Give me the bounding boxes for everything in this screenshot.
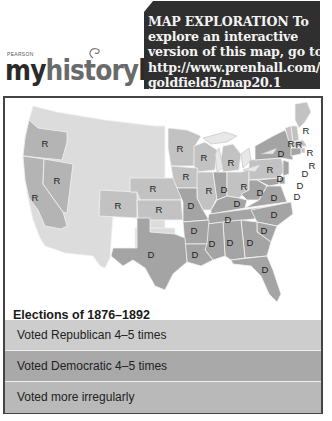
label-tennessee: D [225, 214, 232, 225]
label-virginia: D [271, 192, 278, 203]
label-kentucky: D [234, 198, 241, 209]
label-vermont: R [288, 138, 295, 149]
label-delaware: D [294, 191, 301, 202]
label-michigan: R [228, 157, 235, 168]
callout-text: MAP EXPLORATION To explore an interactiv… [148, 14, 320, 90]
label-new-hampshire: R [296, 139, 303, 150]
state-florida [231, 256, 281, 302]
label-kansas: R [156, 204, 163, 215]
legend-item-democratic: Voted Democratic 4–5 times [5, 351, 321, 381]
label-missouri: D [188, 200, 195, 211]
label-massachusetts: R [307, 147, 314, 158]
myhistorylab-logo: PEARSON myhistorylab [3, 51, 143, 87]
label-louisiana: D [192, 249, 199, 260]
label-indiana: D [221, 184, 228, 195]
logo-swirl-icon [83, 45, 103, 59]
callout-line: MAP EXPLORATION To [148, 14, 320, 29]
label-maryland: D [277, 173, 284, 184]
label-california: R [32, 192, 39, 203]
label-connecticut: D [302, 168, 309, 179]
map-exploration-callout: MAP EXPLORATION To explore an interactiv… [144, 1, 320, 89]
callout-line: explore an interactive [148, 29, 320, 44]
callout-url-line[interactable]: http://www.prenhall.com/ [148, 60, 320, 75]
label-south-carolina: D [261, 225, 268, 236]
label-georgia: D [247, 237, 254, 248]
label-rhode-island: R [309, 160, 316, 171]
label-nevada: R [54, 175, 61, 186]
label-colorado: R [115, 200, 122, 211]
label-new-jersey: D [297, 180, 304, 191]
label-alabama: D [227, 237, 234, 248]
callout-line: version of this map, go to [148, 44, 320, 59]
label-texas: D [148, 249, 155, 260]
label-nebraska: R [150, 183, 157, 194]
us-election-map: R R R R R R R R R R R D R R D R R R R R … [5, 98, 321, 310]
legend-item-republican: Voted Republican 4–5 times [5, 320, 321, 350]
label-ohio: R [241, 181, 248, 192]
label-west-virginia: D [257, 187, 264, 198]
label-maine: R [303, 125, 310, 136]
callout-url-line[interactable]: goldfield5/map20.1 [148, 75, 320, 90]
label-arkansas: D [191, 225, 198, 236]
label-mississippi: D [209, 238, 216, 249]
label-minnesota: R [177, 143, 184, 154]
label-florida: D [262, 264, 269, 275]
label-illinois: R [206, 185, 213, 196]
label-new-york: D [278, 148, 285, 159]
label-pennsylvania: R [267, 164, 274, 175]
state-new-jersey [283, 160, 289, 176]
label-wisconsin: R [201, 152, 208, 163]
label-north-carolina: D [271, 209, 278, 220]
logo-prefix: my [5, 53, 46, 87]
label-iowa: R [183, 171, 190, 182]
legend-item-irregular: Voted more irregularly [5, 382, 321, 413]
label-oregon: R [42, 138, 49, 149]
